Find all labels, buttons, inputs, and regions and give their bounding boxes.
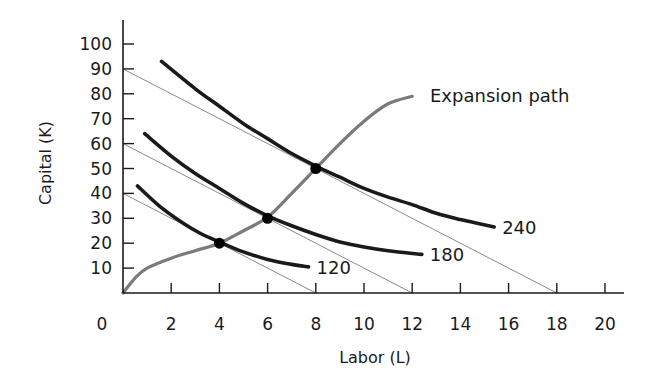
x-tick-label: 18 [546,314,568,334]
x-tick-label: 2 [166,314,177,334]
expansion-path-curve [123,96,412,293]
y-tick-label: 40 [90,183,112,203]
y-tick-label: 10 [90,258,112,278]
x-tick-label: 10 [353,314,375,334]
production-chart: 2468101214161820102030405060708090100 0 … [0,0,660,386]
tangency-point [262,213,273,224]
isoquant-label-180: 180 [430,244,464,265]
tangency-points [214,163,321,249]
x-tick-label: 16 [498,314,520,334]
y-tick-label: 100 [80,34,112,54]
x-tick-label: 12 [401,314,423,334]
isoquant-label-240: 240 [502,217,536,238]
expansion-path-label: Expansion path [430,85,569,106]
y-tick-label: 90 [90,59,112,79]
y-tick-label: 70 [90,109,112,129]
y-axis-title: Capital (K) [36,121,55,205]
axis-ticks: 2468101214161820102030405060708090100 [80,34,616,334]
x-tick-label: 14 [450,314,472,334]
y-tick-label: 20 [90,233,112,253]
tangency-point [310,163,321,174]
expansion-path [123,96,412,293]
isoquant-label-120: 120 [317,257,351,278]
x-tick-label: 6 [262,314,273,334]
x-axis-title: Labor (L) [339,348,411,367]
y-tick-label: 60 [90,134,112,154]
x-tick-label: 8 [310,314,321,334]
axes [123,20,624,293]
x-tick-label: 20 [594,314,616,334]
y-tick-label: 80 [90,84,112,104]
origin-label: 0 [97,314,108,334]
y-tick-label: 30 [90,208,112,228]
x-tick-label: 4 [214,314,225,334]
y-tick-label: 50 [90,159,112,179]
tangency-point [214,238,225,249]
